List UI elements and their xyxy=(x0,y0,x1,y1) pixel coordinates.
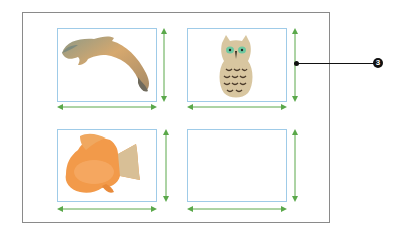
dolphin-height-dimension xyxy=(159,28,169,102)
owl-width-dimension xyxy=(187,102,287,112)
fish-width-dimension xyxy=(57,204,157,214)
empty-height-dimension xyxy=(290,129,300,202)
cell-owl xyxy=(187,28,287,102)
cell-dolphin xyxy=(57,28,157,102)
callout-leader-line xyxy=(293,60,375,67)
dolphin-width-dimension xyxy=(57,102,157,112)
empty-width-dimension xyxy=(187,204,287,214)
fish-image xyxy=(58,130,156,201)
dolphin-image xyxy=(58,29,156,101)
callout-number-badge: 3 xyxy=(373,58,383,68)
fish-height-dimension xyxy=(161,129,171,202)
owl-image xyxy=(188,29,286,101)
cell-fish xyxy=(57,129,157,202)
cell-empty xyxy=(187,129,287,202)
